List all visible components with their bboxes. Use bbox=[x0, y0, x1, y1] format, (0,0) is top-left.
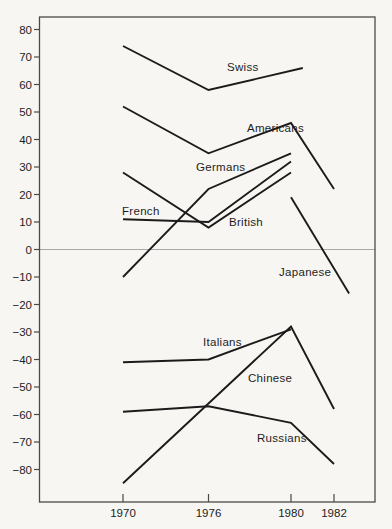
x-axis-tick-label: 1976 bbox=[196, 507, 222, 519]
series-label-french: French bbox=[122, 205, 160, 217]
chart-svg: 80706050403020100−10−20−30−40−50−60−70−8… bbox=[0, 0, 392, 529]
y-axis-tick-label: −60 bbox=[12, 409, 32, 421]
y-axis-tick-label: −30 bbox=[12, 326, 32, 338]
y-axis-tick-label: −80 bbox=[12, 464, 32, 476]
y-axis-tick-label: 80 bbox=[19, 24, 32, 36]
y-axis-tick-label: −40 bbox=[12, 354, 32, 366]
y-axis-tick-label: 70 bbox=[19, 51, 32, 63]
y-axis-tick-label: 50 bbox=[19, 106, 32, 118]
y-axis-tick-label: 10 bbox=[19, 216, 32, 228]
series-label-swiss: Swiss bbox=[227, 61, 259, 73]
y-axis-tick-label: 0 bbox=[26, 244, 32, 256]
y-axis-tick-label: 40 bbox=[19, 134, 32, 146]
y-axis-tick-label: 30 bbox=[19, 161, 32, 173]
series-line-chinese bbox=[123, 327, 334, 484]
y-axis-tick-label: −50 bbox=[12, 381, 32, 393]
series-line-swiss bbox=[123, 46, 303, 90]
y-axis-tick-label: −20 bbox=[12, 299, 32, 311]
series-label-british: British bbox=[229, 216, 263, 228]
y-axis-tick-label: 20 bbox=[19, 189, 32, 201]
series-label-americans: Americans bbox=[247, 122, 304, 134]
series-label-russians: Russians bbox=[257, 432, 307, 444]
series-label-chinese: Chinese bbox=[248, 372, 292, 384]
y-axis-tick-label: −70 bbox=[12, 436, 32, 448]
series-label-italians: Italians bbox=[203, 336, 242, 348]
x-axis-tick-label: 1980 bbox=[278, 507, 304, 519]
series-line-americans bbox=[123, 107, 334, 190]
y-axis-tick-label: −10 bbox=[12, 271, 32, 283]
y-axis-tick-label: 60 bbox=[19, 79, 32, 91]
x-axis-tick-label: 1982 bbox=[321, 507, 347, 519]
line-chart-figure: 80706050403020100−10−20−30−40−50−60−70−8… bbox=[0, 0, 392, 529]
x-axis-tick-label: 1970 bbox=[110, 507, 136, 519]
series-label-japanese: Japanese bbox=[279, 266, 331, 278]
series-label-germans: Germans bbox=[196, 161, 245, 173]
series-line-japanese bbox=[291, 197, 349, 293]
